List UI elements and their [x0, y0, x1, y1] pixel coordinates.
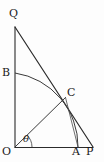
segment-QP — [15, 27, 93, 147]
figure-canvas — [0, 0, 104, 162]
segment-CA — [66, 98, 79, 148]
label-B: B — [2, 67, 10, 78]
geometry-figure: Q B C O A P θ — [0, 0, 104, 162]
label-O: O — [2, 146, 11, 157]
label-P: P — [86, 146, 93, 157]
label-C: C — [67, 87, 75, 98]
label-A: A — [72, 146, 80, 157]
label-theta-angle: θ — [23, 134, 29, 144]
label-Q: Q — [9, 8, 18, 19]
